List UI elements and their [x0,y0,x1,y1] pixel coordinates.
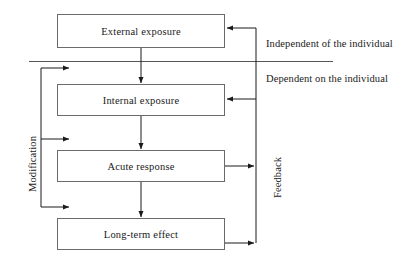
flow-diagram: External exposure Internal exposure Acut… [0,0,417,267]
node-long-term-effect-label: Long-term effect [104,229,178,240]
node-acute-response-label: Acute response [107,161,174,172]
node-long-term-effect: Long-term effect [57,218,225,250]
node-internal-exposure: Internal exposure [57,84,225,116]
node-internal-exposure-label: Internal exposure [103,95,180,106]
axis-label-feedback: Feedback [272,157,283,198]
node-external-exposure-label: External exposure [101,26,181,37]
note-independent-of-the-individual: Independent of the individual [266,38,393,49]
note-dependent-on-the-individual: Dependent on the individual [266,73,388,84]
node-acute-response: Acute response [57,150,225,182]
axis-label-modification: Modification [27,136,38,192]
node-external-exposure: External exposure [57,14,225,48]
